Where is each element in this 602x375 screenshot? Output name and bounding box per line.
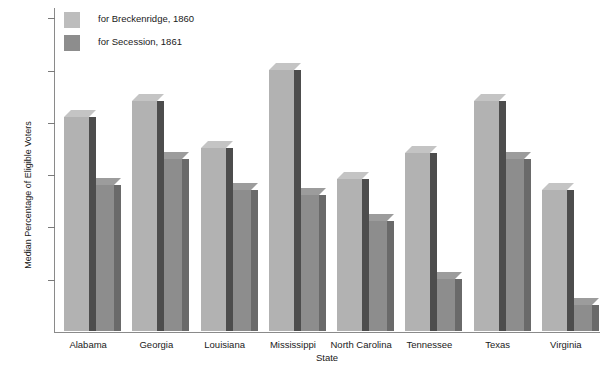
bar-group	[405, 7, 462, 331]
bar-side-face	[567, 190, 574, 331]
bar-group	[474, 7, 531, 331]
bar-side-face	[499, 101, 506, 331]
bar-face	[474, 101, 499, 331]
bar	[132, 101, 157, 331]
x-tick-label: Texas	[464, 340, 532, 350]
bar	[269, 70, 294, 331]
bar-side-face	[157, 101, 164, 331]
y-axis-title: Median Percentage of Eligible Voters	[23, 80, 33, 310]
x-tick-label: North Carolina	[327, 340, 395, 350]
bar-face	[132, 101, 157, 331]
x-tick-label: Louisiana	[191, 340, 259, 350]
bar-group	[64, 7, 121, 331]
bar-top-face	[542, 183, 574, 190]
y-tick	[48, 280, 55, 281]
legend-label: for Breckenridge, 1860	[98, 13, 194, 24]
bar-side-face	[226, 148, 233, 331]
legend-label: for Secession, 1861	[98, 36, 182, 47]
bar-side-face	[294, 70, 301, 331]
bar-face	[542, 190, 567, 331]
bar-top-face	[269, 63, 301, 70]
bar-chart: Median Percentage of Eligible Voters for…	[0, 0, 602, 375]
bar-top-face	[405, 146, 437, 153]
bar-side-face	[455, 279, 462, 331]
bar	[64, 117, 89, 331]
legend-swatch	[64, 12, 80, 28]
bar-top-face	[337, 172, 369, 179]
bar-side-face	[89, 117, 96, 331]
bar	[405, 153, 430, 331]
bar-side-face	[387, 221, 394, 331]
bar-top-face	[132, 94, 164, 101]
bar-face	[337, 179, 362, 331]
bar-side-face	[362, 179, 369, 331]
bar-side-face	[319, 195, 326, 331]
x-axis-title: State	[54, 352, 600, 363]
bar-face	[269, 70, 294, 331]
bar	[542, 190, 567, 331]
y-tick	[48, 175, 55, 176]
plot-area: 102030405060 AlabamaGeorgiaLouisianaMiss…	[54, 8, 600, 332]
bar	[337, 179, 362, 331]
bar-face	[64, 117, 89, 331]
y-tick	[48, 123, 55, 124]
bar-top-face	[474, 94, 506, 101]
bar-group	[201, 7, 258, 331]
bar-top-face	[201, 141, 233, 148]
x-axis-line	[54, 332, 600, 333]
x-tick-label: Virginia	[532, 340, 600, 350]
bar-side-face	[592, 305, 599, 331]
bar-side-face	[524, 159, 531, 331]
x-tick-label: Mississippi	[259, 340, 327, 350]
bar-side-face	[114, 185, 121, 331]
bar-side-face	[430, 153, 437, 331]
y-tick	[48, 71, 55, 72]
bar	[474, 101, 499, 331]
bar-top-face	[64, 110, 96, 117]
bar-face	[201, 148, 226, 331]
bar-group	[542, 7, 599, 331]
y-tick	[48, 18, 55, 19]
bar-side-face	[182, 159, 189, 331]
legend-swatch	[64, 35, 80, 51]
bar-group	[337, 7, 394, 331]
y-tick	[48, 227, 55, 228]
x-tick-label: Georgia	[122, 340, 190, 350]
y-axis-line	[54, 8, 55, 333]
bar-side-face	[251, 190, 258, 331]
bar	[201, 148, 226, 331]
bar-face	[405, 153, 430, 331]
x-tick-label: Tennessee	[395, 340, 463, 350]
x-tick-label: Alabama	[54, 340, 122, 350]
bar-group	[269, 7, 326, 331]
bar-group	[132, 7, 189, 331]
